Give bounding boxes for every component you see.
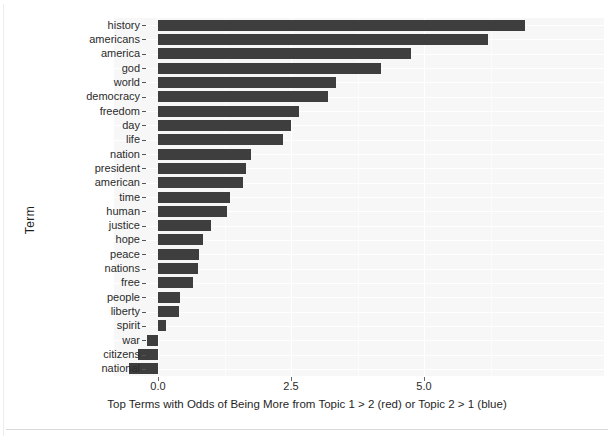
y-tick-mark: [142, 140, 146, 141]
y-axis-tick-labels: historyamericansamericagodworlddemocracy…: [0, 18, 150, 376]
y-tick-label: time: [119, 192, 140, 203]
y-tick-label: president: [95, 163, 140, 174]
y-tick-mark: [142, 68, 146, 69]
y-tick-mark: [142, 254, 146, 255]
y-tick-label: freedom: [100, 106, 140, 117]
bar-chart: historyamericansamericagodworlddemocracy…: [0, 0, 614, 440]
bar: [158, 234, 203, 245]
y-tick-label: world: [114, 77, 140, 88]
y-tick-mark: [142, 369, 146, 370]
x-tick-label: 5.0: [416, 380, 431, 392]
y-tick-mark: [142, 312, 146, 313]
x-axis-title: Top Terms with Odds of Being More from T…: [0, 398, 614, 410]
y-tick-label: day: [122, 120, 140, 131]
y-tick-mark: [142, 326, 146, 327]
bar: [158, 63, 381, 74]
bar: [158, 120, 291, 131]
bar: [158, 77, 336, 88]
y-tick-mark: [142, 283, 146, 284]
bar: [158, 306, 179, 317]
y-tick-label: god: [122, 63, 140, 74]
bar: [158, 177, 243, 188]
bar: [158, 163, 246, 174]
y-tick-label: american: [95, 177, 140, 188]
bar: [158, 292, 180, 303]
y-tick-label: life: [126, 134, 140, 145]
x-axis-tick-labels: 0.02.55.0: [0, 380, 614, 396]
y-tick-label: war: [122, 335, 140, 346]
bars-group: [114, 18, 604, 376]
y-tick-label: spirit: [117, 320, 140, 331]
y-tick-label: nation: [110, 149, 140, 160]
bar: [158, 20, 525, 31]
x-tick-label: 2.5: [283, 380, 298, 392]
bar: [158, 134, 283, 145]
y-tick-label: americans: [89, 34, 140, 45]
y-tick-label: peace: [110, 249, 140, 260]
y-tick-label: hope: [116, 234, 140, 245]
y-tick-mark: [142, 82, 146, 83]
y-tick-mark: [142, 183, 146, 184]
bar: [158, 91, 328, 102]
y-tick-label: national: [101, 363, 140, 374]
y-tick-mark: [142, 197, 146, 198]
y-tick-mark: [142, 226, 146, 227]
y-tick-mark: [142, 168, 146, 169]
y-tick-mark: [142, 25, 146, 26]
y-tick-mark: [142, 355, 146, 356]
y-tick-mark: [142, 125, 146, 126]
y-tick-label: justice: [109, 220, 140, 231]
bar: [158, 149, 251, 160]
y-tick-label: liberty: [111, 306, 140, 317]
y-tick-mark: [142, 111, 146, 112]
y-tick-mark: [142, 297, 146, 298]
y-tick-mark: [142, 154, 146, 155]
y-tick-label: people: [107, 292, 140, 303]
page-rule: [6, 429, 608, 430]
y-tick-label: democracy: [86, 91, 140, 102]
y-tick-mark: [142, 240, 146, 241]
y-tick-label: citizens: [103, 349, 140, 360]
y-tick-label: history: [108, 20, 140, 31]
y-axis-title: Term: [23, 206, 37, 235]
y-tick-mark: [142, 54, 146, 55]
y-tick-label: america: [101, 48, 140, 59]
y-tick-mark: [142, 211, 146, 212]
bar: [158, 192, 230, 203]
y-tick-mark: [142, 340, 146, 341]
bar: [158, 206, 227, 217]
bar: [158, 106, 299, 117]
y-tick-label: nations: [105, 263, 140, 274]
bar: [158, 220, 211, 231]
y-tick-mark: [142, 269, 146, 270]
y-tick-mark: [142, 39, 146, 40]
bar: [158, 320, 166, 331]
y-tick-mark: [142, 97, 146, 98]
bar: [158, 263, 198, 274]
bar: [158, 34, 488, 45]
bar: [158, 48, 411, 59]
bar: [158, 277, 193, 288]
bar: [158, 249, 199, 260]
x-tick-label: 0.0: [150, 380, 165, 392]
y-tick-label: free: [121, 277, 140, 288]
y-tick-label: human: [106, 206, 140, 217]
